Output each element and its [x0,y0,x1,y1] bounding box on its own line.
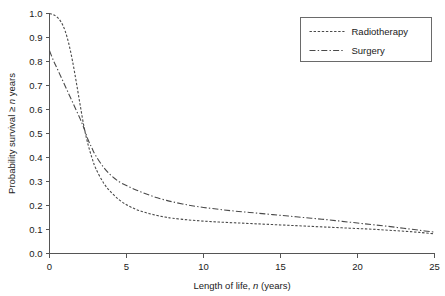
x-axis-tick-label: 5 [124,261,129,272]
survival-curve-figure: 0.00.10.20.30.40.50.60.70.80.91.00510152… [0,0,445,296]
y-axis-tick-label: 0.0 [29,248,42,259]
x-axis-tick-label: 10 [198,261,209,272]
x-axis-tick-label: 0 [47,261,52,272]
y-axis-tick-label: 0.3 [29,176,42,187]
legend-label-surgery[interactable]: Surgery [352,45,386,56]
x-axis-tick-label: 20 [352,261,363,272]
legend-label-radiotherapy[interactable]: Radiotherapy [352,26,409,37]
y-axis-tick-label: 0.2 [29,200,42,211]
y-axis-tick-label: 0.4 [29,152,42,163]
y-axis-tick-label: 0.5 [29,128,42,139]
y-axis-tick-label: 0.1 [29,224,42,235]
chart-canvas: 0.00.10.20.30.40.50.60.70.80.91.00510152… [0,0,445,296]
x-axis-tick-label: 15 [275,261,286,272]
y-axis-tick-label: 0.9 [29,32,42,43]
series-line-surgery [50,51,435,232]
x-axis-tick-label: 25 [429,261,440,272]
chart-legend[interactable]: RadiotherapySurgery [301,18,432,62]
y-axis-tick-label: 0.7 [29,80,42,91]
y-axis-title: Probability survival ≥ n years [6,73,17,194]
y-axis-tick-label: 0.6 [29,104,42,115]
y-axis-tick-label: 1.0 [29,8,42,19]
x-axis-title: Length of life, n (years) [193,280,290,291]
y-axis-tick-label: 0.8 [29,56,42,67]
